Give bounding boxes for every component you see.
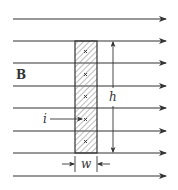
field-label: B xyxy=(16,68,26,82)
current-label: i xyxy=(43,112,47,126)
hall-effect-diagram: B i h w xyxy=(0,0,178,190)
conducting-strip xyxy=(75,41,97,153)
height-label: h xyxy=(109,90,117,104)
width-label: w xyxy=(81,157,92,171)
